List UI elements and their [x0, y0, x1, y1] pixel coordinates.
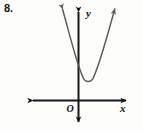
figure-container: 8. y x O [0, 0, 142, 131]
y-axis-label: y [84, 7, 91, 19]
origin-label: O [67, 103, 74, 114]
x-axis-label: x [119, 102, 126, 114]
parabola-graph: y x O [0, 0, 142, 131]
parabola-curve [63, 9, 115, 82]
